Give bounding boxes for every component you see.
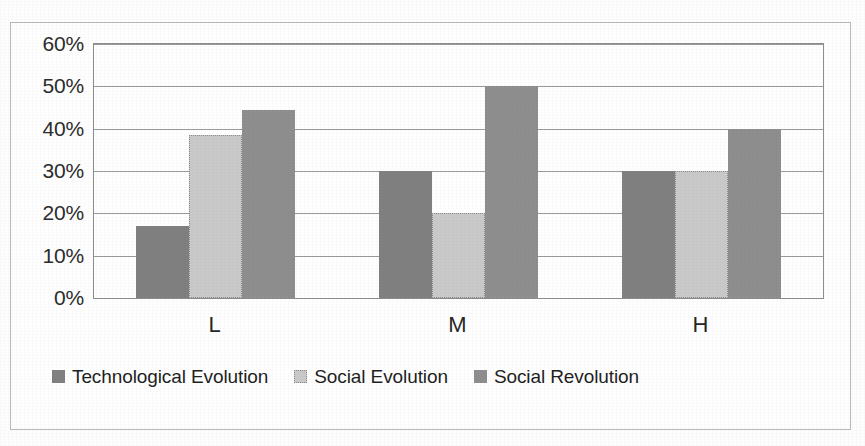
legend-swatch-social-revolution [474,370,487,383]
legend-swatch-technological-evolution [52,370,65,383]
bar-m-series-3 [485,86,538,298]
legend-item-label: Social Evolution [314,366,448,387]
y-axis-tick-label: 0% [18,287,84,308]
legend-item-label: Social Revolution [494,366,639,387]
bar-l-series-3 [242,110,295,298]
x-axis-tick-label: H [661,312,741,338]
y-axis-tick-label: 40% [18,118,84,139]
x-axis-tick-label: M [418,312,498,338]
y-axis-tick-label: 10% [18,245,84,266]
plot-area [93,43,824,299]
bar-h-series-1 [622,171,675,298]
bar-l-series-1 [136,226,189,298]
y-axis: 60%50%40%30%20%10%0% [18,30,84,310]
gridline [94,298,823,299]
legend-swatch-social-evolution [294,370,307,383]
chart-legend: Technological EvolutionSocial EvolutionS… [52,362,812,390]
bar-h-series-2 [675,171,728,298]
bar-h-series-3 [728,129,781,298]
bars-layer [94,44,823,298]
y-axis-tick-label: 50% [18,75,84,96]
legend-item-technological-evolution[interactable]: Technological Evolution [52,366,268,387]
legend-item-label: Technological Evolution [72,366,268,387]
x-axis-tick-label: L [175,312,255,338]
bar-group-h [580,44,823,298]
bar-l-series-2 [189,135,242,298]
y-axis-tick-label: 60% [18,33,84,54]
bar-m-series-2 [432,213,485,298]
figure-caption [0,436,865,446]
legend-item-social-revolution[interactable]: Social Revolution [474,366,639,387]
bar-group-l [94,44,337,298]
x-axis: LMH [93,312,822,346]
scanned-page: 60%50%40%30%20%10%0% LMH Technological E… [0,0,865,446]
y-axis-tick-label: 30% [18,160,84,181]
legend-item-social-evolution[interactable]: Social Evolution [294,366,448,387]
y-axis-tick-label: 20% [18,202,84,223]
bar-group-m [337,44,580,298]
bar-m-series-1 [379,171,432,298]
